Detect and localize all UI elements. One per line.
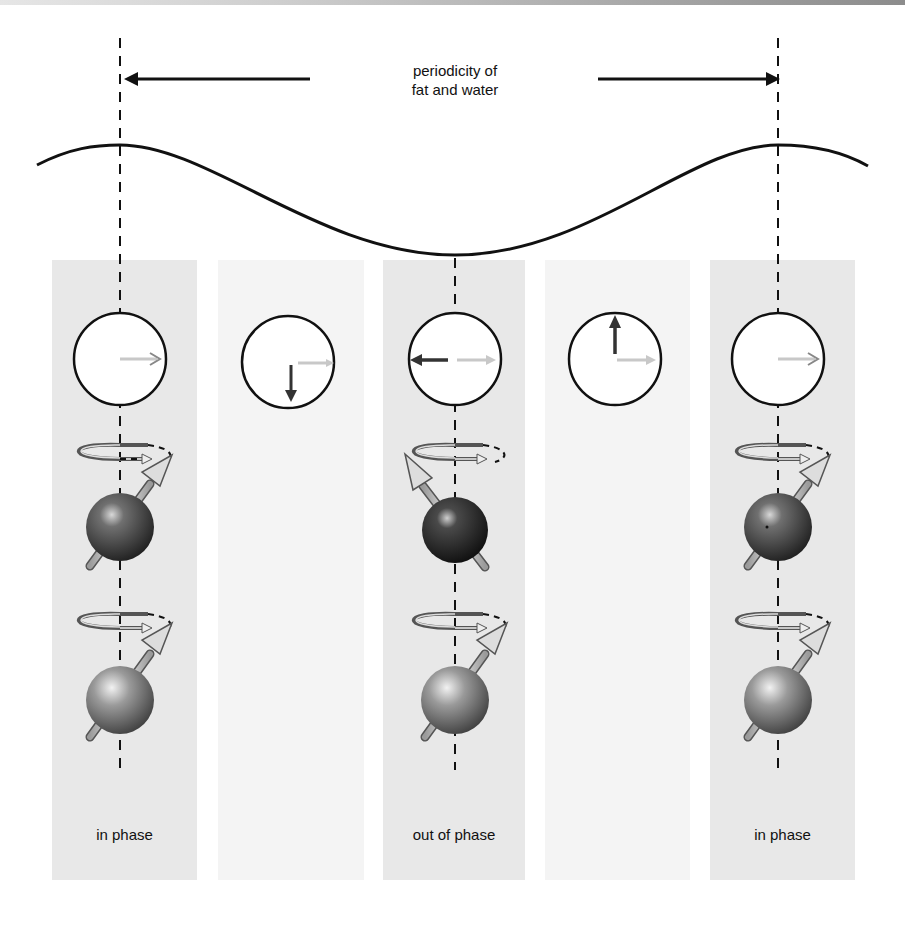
periodicity-arrow-right — [598, 72, 780, 86]
water-spin-col4 — [737, 614, 830, 737]
label-out-of-phase: out of phase — [383, 826, 525, 843]
periodicity-title: periodicity of fat and water — [350, 61, 560, 99]
phase-circle-4 — [732, 313, 824, 405]
water-spin-col2 — [414, 614, 507, 737]
fat-spin-col0 — [79, 445, 172, 566]
title-line-1: periodicity of — [350, 61, 560, 80]
phase-circle-0 — [74, 313, 166, 405]
phase-circle-1 — [242, 316, 334, 408]
sine-wave — [37, 145, 868, 255]
label-in-phase-left: in phase — [52, 826, 197, 843]
title-line-2: fat and water — [350, 80, 560, 99]
water-spin-col0 — [79, 614, 172, 737]
phase-circle-2 — [409, 313, 501, 405]
phase-circle-3 — [569, 313, 661, 405]
label-in-phase-right: in phase — [710, 826, 855, 843]
periodicity-arrow-left — [124, 72, 310, 86]
diagram-graphics — [0, 0, 905, 930]
fat-spin-col4 — [737, 445, 830, 566]
